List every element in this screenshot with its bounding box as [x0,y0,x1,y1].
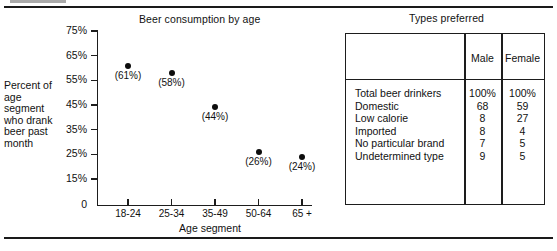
data-point-label: (24%) [280,161,324,172]
data-point [125,63,131,69]
x-axis-title: Age segment [120,222,300,234]
table-row: Total beer drinkers100%100% [346,87,544,100]
y-axis-tick-label: 25% [45,148,87,158]
table-cell-female: 59 [501,100,544,112]
y-axis-tick-label: 15% [45,173,87,183]
table-cell-label: Domestic [355,100,399,112]
y-axis-tick-label: 0 [45,199,87,209]
figure-canvas: Beer consumption by age Percent of age s… [0,0,557,251]
table-cell-female: 5 [501,137,544,149]
y-axis-tick [91,80,97,81]
x-axis-tick [171,199,172,205]
types-preferred-table: Male Female Total beer drinkers100%100%D… [345,33,545,205]
table-cell-male: 9 [464,150,501,162]
y-axis-tick-label: 75% [45,25,87,35]
table-row: Imported84 [346,125,544,138]
table-cell-label: Low calorie [355,112,408,124]
y-axis-tick [91,129,97,130]
table-row: Domestic6859 [346,100,544,113]
data-point [256,149,262,155]
table-row: Low calorie827 [346,112,544,125]
y-axis-tick-label: 35% [45,124,87,134]
table-row: Undetermined type95 [346,150,544,163]
column-header-male: Male [464,52,501,64]
table-cell-label: Total beer drinkers [355,87,441,99]
table-cell-male: 8 [464,112,501,124]
y-axis-tick [91,104,97,105]
data-point-label: (58%) [150,77,194,88]
y-axis-tick [91,30,97,31]
x-axis-tick [258,199,259,205]
table-body: Total beer drinkers100%100%Domestic6859L… [346,80,544,204]
table-cell-female: 100% [501,87,544,99]
data-point [212,104,218,110]
data-point-label: (44%) [193,111,237,122]
table-header-row: Male Female [346,34,544,80]
table-cell-male: 68 [464,100,501,112]
y-axis-title: Percent of age segment who drank beer pa… [4,80,56,150]
data-point-label: (26%) [237,156,281,167]
table-cell-male: 8 [464,125,501,137]
x-axis-tick-label: 65 + [272,208,332,219]
table-row: No particular brand75 [346,137,544,150]
y-axis-tick [91,55,97,56]
x-axis-tick [301,199,302,205]
chart-title: Beer consumption by age [139,13,260,25]
y-axis-tick [91,178,97,179]
x-axis-tick [214,199,215,205]
data-point [169,70,175,76]
beer-consumption-chart: Beer consumption by age Percent of age s… [0,0,340,251]
table-cell-male: 100% [464,87,501,99]
y-axis-tick [91,154,97,155]
table-cell-female: 5 [501,150,544,162]
y-axis-tick-label: 55% [45,74,87,84]
x-axis-line [97,205,312,206]
table-cell-label: Imported [355,125,396,137]
y-axis-tick-label: 45% [45,99,87,109]
y-axis-tick-label: 65% [45,50,87,60]
data-point-label: (61%) [106,70,150,81]
table-cell-female: 27 [501,112,544,124]
data-point [299,154,305,160]
column-header-female: Female [501,52,544,64]
table-title: Types preferred [409,12,484,24]
table-cell-female: 4 [501,125,544,137]
x-axis-tick [127,199,128,205]
y-axis-line [97,30,98,206]
table-cell-male: 7 [464,137,501,149]
table-cell-label: Undetermined type [355,150,444,162]
table-cell-label: No particular brand [355,137,444,149]
